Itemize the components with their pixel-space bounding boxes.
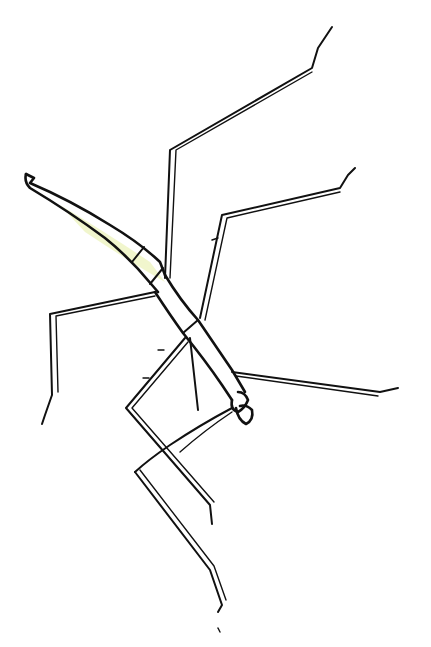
spines <box>143 350 220 632</box>
leg-left-upper <box>42 292 155 424</box>
drawing-canvas: stick insect <box>0 0 431 647</box>
stick-insect-illustration <box>0 0 431 647</box>
leg-front-right <box>232 372 398 396</box>
leg-front-lower <box>135 470 226 612</box>
antennae <box>135 408 232 472</box>
leg-front-left <box>126 338 214 524</box>
leg-rear-upper <box>165 27 332 278</box>
leg-mid-right <box>200 168 355 320</box>
head <box>232 392 253 424</box>
thorax <box>155 275 245 400</box>
